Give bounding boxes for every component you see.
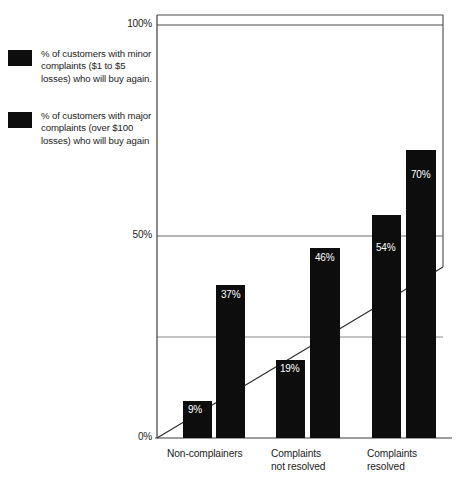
bar-value-not-resolved-minor: 19% [280,363,299,374]
x-tick-line-2: not resolved [271,461,325,472]
bar-value-resolved-major: 70% [411,169,430,180]
x-tick-line-1: Complaints [271,448,321,459]
x-tick-line-1: Complaints [367,448,417,459]
bar-value-not-resolved-major: 46% [315,252,334,263]
x-tick-label-resolved: Complaints resolved [367,448,417,473]
bar-value-non-complainers-minor: 9% [188,404,202,415]
y-tick-label-100: 100% [104,18,152,29]
bar-resolved-major[interactable] [406,150,436,438]
y-tick-label-0: 0% [104,431,152,442]
bar-chart: 100% 50% 0% 9% 37% 19% 46% 54% 70% Non-c… [0,0,459,485]
bar-value-resolved-minor: 54% [376,242,395,253]
bar-not-resolved-major[interactable] [310,248,340,438]
x-tick-label-not-resolved: Complaints not resolved [271,448,325,473]
x-tick-label-non-complainers: Non-complainers [167,448,243,461]
bar-non-complainers-major[interactable] [216,285,245,438]
y-tick-label-50: 50% [104,229,152,240]
x-tick-line-2: resolved [367,461,405,472]
bar-value-non-complainers-major: 37% [221,289,240,300]
